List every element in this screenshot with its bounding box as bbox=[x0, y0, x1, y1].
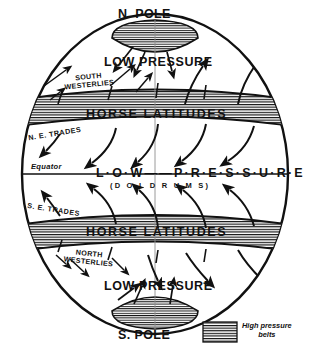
pressure-belts-diagram: N. POLE LOW PRESSURE SOUTH WESTERLIES HO… bbox=[0, 0, 310, 348]
north-horse-latitudes-label: HORSE LATITUDES bbox=[86, 108, 227, 121]
north-pole-label: N. POLE bbox=[118, 8, 171, 21]
equator-label: Equator bbox=[31, 163, 62, 171]
doldrums-label: (D O L D R U M S) bbox=[110, 182, 210, 190]
legend-caption-line2: belts bbox=[258, 330, 275, 339]
equatorial-low-pressure-label: L·O·W——P·R·E·S·S·U·R·E bbox=[96, 167, 305, 180]
south-horse-latitudes-label: HORSE LATITUDES bbox=[86, 226, 227, 239]
south-low-pressure-label: LOW PRESSURE bbox=[104, 280, 213, 293]
north-low-pressure-label: LOW PRESSURE bbox=[104, 56, 213, 69]
legend-swatch-icon bbox=[203, 322, 237, 342]
south-pole-label: S. POLE bbox=[118, 329, 170, 342]
legend-caption: High pressure belts bbox=[242, 322, 292, 339]
